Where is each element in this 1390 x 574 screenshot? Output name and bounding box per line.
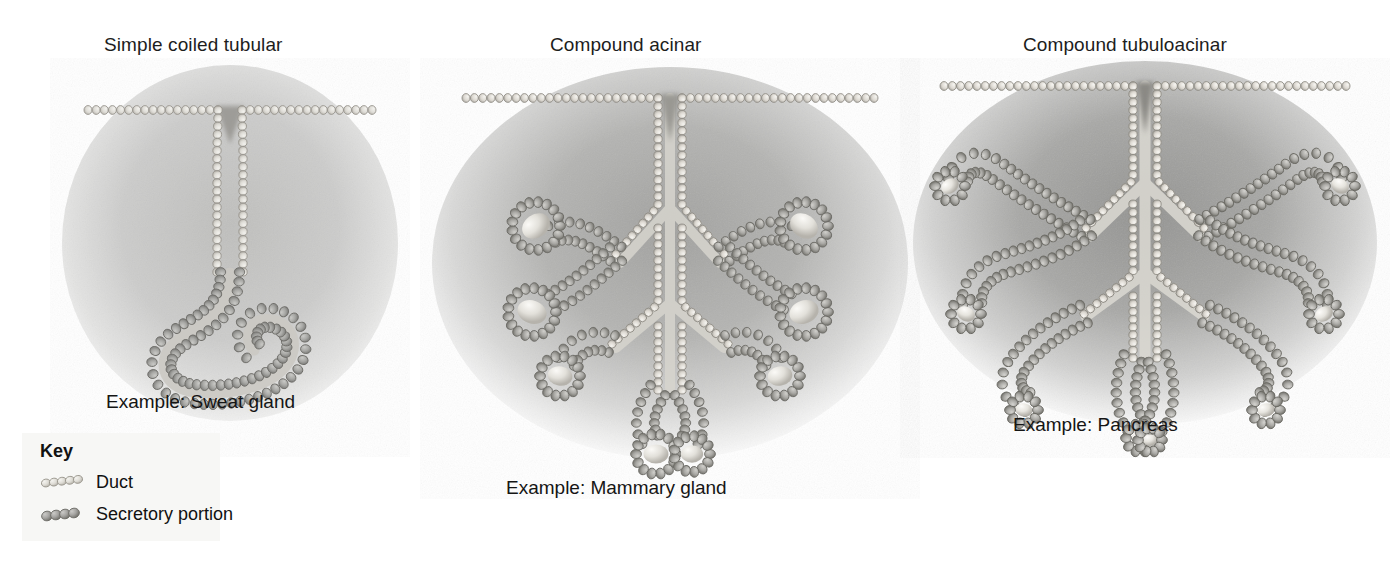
example-caption-mammary-gland: Example: Mammary gland <box>506 477 727 499</box>
key-item-duct: Duct <box>40 467 220 497</box>
key-item-secretory-label: Secretory portion <box>96 504 233 525</box>
gland-illustration-compound-tubuloacinar <box>900 58 1390 458</box>
gland-illustration-compound-acinar <box>420 58 920 508</box>
key-item-secretory: Secretory portion <box>40 499 220 529</box>
duct-cells-swatch <box>40 472 86 492</box>
key-legend: Key Duct <box>22 433 220 541</box>
key-title: Key <box>40 441 220 462</box>
panel-title-compound-tubuloacinar: Compound tubuloacinar <box>1023 34 1227 56</box>
example-caption-pancreas: Example: Pancreas <box>1013 414 1178 436</box>
example-caption-sweat-gland: Example: Sweat gland <box>106 391 295 413</box>
secretory-cells-swatch <box>40 504 86 524</box>
figure-canvas: Simple coiled tubular Compound acinar Co… <box>0 0 1390 574</box>
panel-title-compound-acinar: Compound acinar <box>550 34 701 56</box>
panel-title-simple-coiled-tubular: Simple coiled tubular <box>104 34 282 56</box>
key-item-duct-label: Duct <box>96 472 133 493</box>
